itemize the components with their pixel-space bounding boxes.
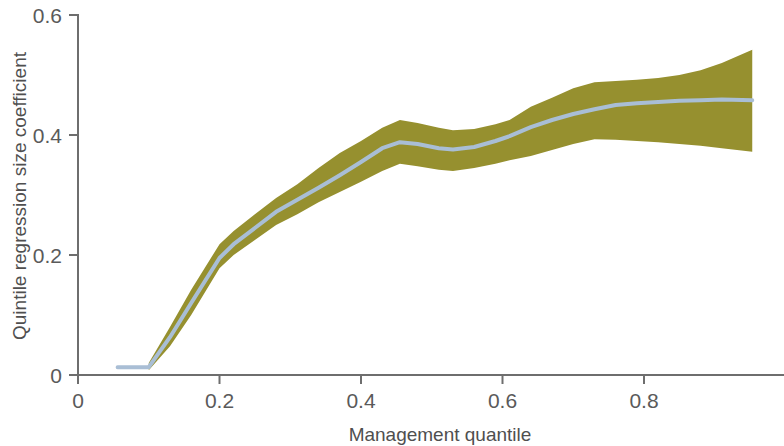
chart-page: 00.20.40.6 00.20.40.60.8 Quintile regres…	[0, 0, 784, 446]
y-axis-title: Quintile regression size coefficient	[9, 51, 30, 340]
x-tick-label: 0.2	[205, 389, 234, 412]
x-axis-title: Management quantile	[349, 424, 532, 445]
x-tick-label: 0	[72, 389, 84, 412]
y-tick-label: 0.6	[33, 4, 62, 27]
y-tick-label: 0.4	[33, 124, 63, 147]
quantile-regression-chart: 00.20.40.6 00.20.40.60.8 Quintile regres…	[0, 0, 784, 446]
x-tick-label: 0.4	[346, 389, 376, 412]
x-tick-label: 0.8	[629, 389, 658, 412]
x-tick-label: 0.6	[488, 389, 517, 412]
y-tick-label: 0.2	[33, 244, 62, 267]
y-tick-label: 0	[50, 364, 62, 387]
chart-background	[0, 0, 784, 446]
